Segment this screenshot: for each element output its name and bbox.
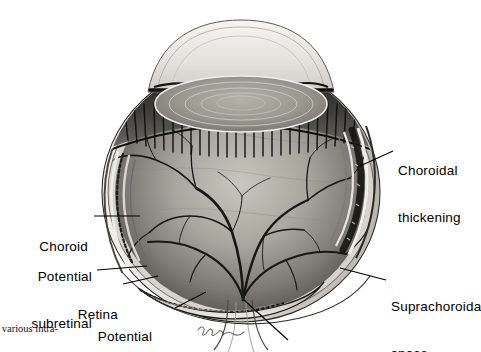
label-potential-subhyaloid-space-line1: Potential (72, 329, 178, 345)
figure-caption-line1: various intra- (0, 323, 58, 335)
label-suprachoroidal-space-line1: Suprachoroidal (391, 299, 481, 315)
label-suprachoroidal-space-line2: space (391, 346, 481, 352)
label-suprachoroidal-space: Suprachoroidal space (391, 268, 481, 352)
label-choroidal-thickening: Choroidal thickening (398, 132, 461, 241)
figure-caption: various intra- paces include spaces. (Fr… (0, 300, 58, 352)
lens-and-iris (150, 76, 332, 132)
label-choroidal-thickening-line2: thickening (398, 210, 461, 226)
label-potential-subhyaloid-space: Potential subhyaloid space (72, 298, 178, 352)
label-subretinal: Subretinal (292, 334, 355, 352)
label-choroidal-thickening-line1: Choroidal (398, 163, 461, 179)
